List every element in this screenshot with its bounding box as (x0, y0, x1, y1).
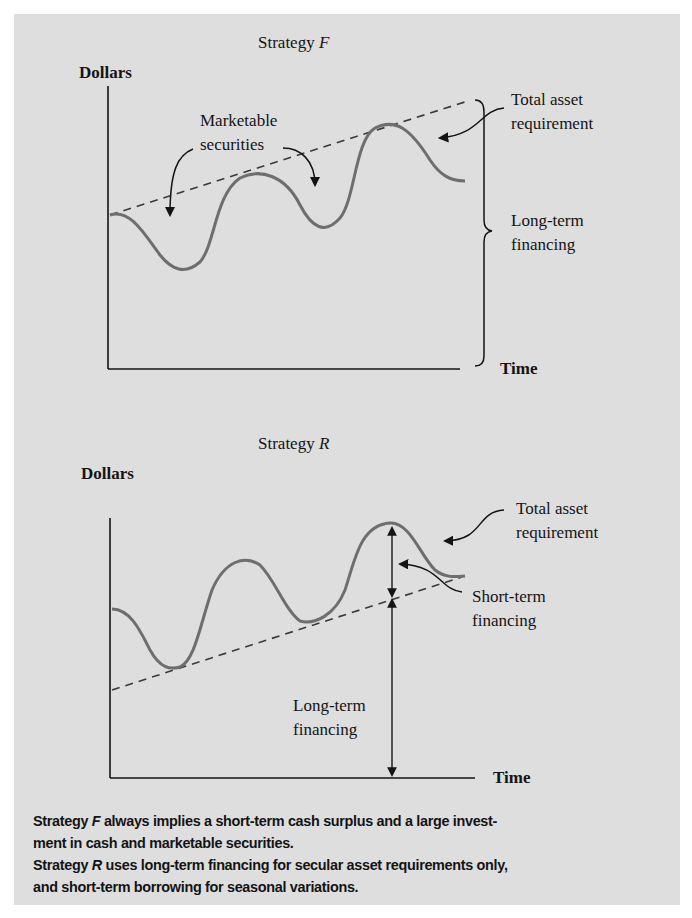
strategy-r-chart: Strategy R Dollars Time Total asset requ… (81, 434, 598, 787)
caption-line-4: and short-term borrowing for seasonal va… (33, 876, 628, 898)
label-long-term: Long-term (511, 211, 584, 230)
long-term-financing-line (112, 577, 462, 690)
label-marketable: Marketable (200, 111, 277, 130)
label-short-term: Short-term (472, 587, 546, 606)
label-long-term: Long-term (293, 696, 366, 715)
figure-diagrams: Strategy F Dollars Time Marketable secur… (0, 0, 692, 918)
label-requirement: requirement (516, 523, 598, 542)
label-total-asset: Total asset (511, 90, 583, 109)
arrow-left-trough-icon (170, 149, 193, 215)
label-securities: securities (200, 135, 264, 154)
y-axis-label: Dollars (81, 464, 134, 483)
strategy-r-title: Strategy R (258, 434, 330, 453)
arrow-total-asset-icon (440, 108, 504, 138)
caption-line-2: ment in cash and marketable securities. (33, 832, 628, 854)
y-axis-label: Dollars (79, 63, 132, 82)
arrow-total-asset-icon (445, 510, 504, 541)
strategy-f-chart: Strategy F Dollars Time Marketable secur… (79, 33, 593, 378)
label-total-asset: Total asset (516, 499, 588, 518)
caption-line-1: Strategy F always implies a short-term c… (33, 810, 628, 832)
long-term-brace-icon (475, 100, 492, 366)
label-requirement: requirement (511, 114, 593, 133)
x-axis-label: Time (493, 768, 531, 787)
label-short-financing: financing (472, 611, 537, 630)
total-asset-requirement-curve (112, 523, 465, 668)
label-financing: financing (511, 235, 576, 254)
total-asset-requirement-curve (110, 124, 465, 269)
label-long-financing: financing (293, 720, 358, 739)
arrow-middle-trough-icon (283, 148, 315, 185)
x-axis-label: Time (500, 359, 538, 378)
caption-line-3: Strategy R uses long-term financing for … (33, 854, 628, 876)
strategy-f-title: Strategy F (258, 33, 330, 52)
long-term-financing-line (110, 101, 468, 215)
figure-caption: Strategy F always implies a short-term c… (33, 810, 628, 898)
